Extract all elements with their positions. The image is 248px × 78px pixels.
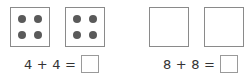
equation-1: 4 + 4 = — [24, 55, 99, 73]
answer-box[interactable] — [81, 55, 99, 73]
answer-box[interactable] — [220, 55, 238, 73]
empty-draw-box-1[interactable] — [149, 7, 189, 47]
dot-icon — [34, 15, 42, 23]
empty-draw-box-2[interactable] — [204, 7, 244, 47]
dot-box-2 — [65, 7, 105, 47]
dot-icon — [18, 31, 26, 39]
dot-icon — [89, 15, 97, 23]
dot-box-1 — [10, 7, 50, 47]
dot-icon — [34, 31, 42, 39]
equation-2: 8 + 8 = — [163, 55, 238, 73]
dot-icon — [18, 15, 26, 23]
dot-icon — [73, 15, 81, 23]
dot-icon — [89, 31, 97, 39]
equation-text: 8 + 8 = — [163, 57, 215, 72]
dot-icon — [73, 31, 81, 39]
equation-text: 4 + 4 = — [24, 57, 76, 72]
